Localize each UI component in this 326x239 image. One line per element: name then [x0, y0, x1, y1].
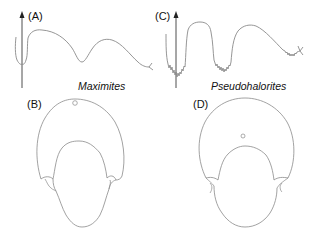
panel-a-suture [15, 11, 153, 88]
panel-b-lower-whorl [53, 179, 110, 227]
panel-b-outer-whorl [37, 99, 124, 180]
panel-c-suture-line [166, 22, 303, 77]
panel-d-outer-whorl [199, 98, 294, 178]
panel-d-cross-section [199, 98, 294, 227]
panel-label-b: (B) [27, 98, 42, 110]
panel-b-inner-whorl-impression [41, 141, 116, 180]
panel-label-a: (A) [28, 10, 43, 22]
panel-c-arrowhead-icon [174, 11, 179, 18]
panel-b-cross-section [37, 99, 124, 227]
panel-d-siphuncle [241, 134, 245, 138]
taxon-label-maximites: Maximites [78, 80, 125, 92]
panel-b-siphuncle [73, 101, 78, 106]
panel-label-d: (D) [193, 98, 208, 110]
taxon-label-pseudohalorites: Pseudohalorites [211, 80, 286, 92]
panel-d-lower-whorl [214, 186, 277, 227]
panel-d-right-shoulder [277, 178, 288, 192]
panel-a-suture-line [15, 30, 153, 70]
panel-c-suture [166, 11, 303, 88]
panel-label-c: (C) [155, 10, 170, 22]
panel-d-left-shoulder [206, 178, 214, 193]
panel-d-inner-whorl-impression [206, 146, 288, 180]
panel-a-arrowhead-icon [20, 11, 25, 18]
panel-b-left-shoulder [45, 179, 56, 191]
figure-canvas [0, 0, 326, 239]
